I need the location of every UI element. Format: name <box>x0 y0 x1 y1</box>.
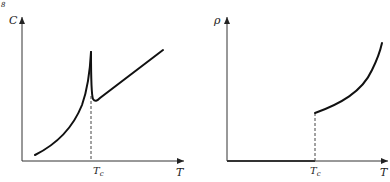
figure: 8 C T Tc ρ T Tc <box>0 0 390 182</box>
y-axis-label: C <box>9 14 18 27</box>
resistivity-panel: ρ T Tc <box>213 14 389 179</box>
critical-temp-label: Tc <box>93 165 104 178</box>
corner-mark: 8 <box>1 1 6 9</box>
curve-below-tc <box>35 52 91 155</box>
y-axis-label: ρ <box>213 14 221 27</box>
x-axis-label: T <box>176 166 185 179</box>
x-axis-label: T <box>380 166 389 179</box>
curve-above-tc <box>315 43 382 113</box>
curve-above-tc <box>91 50 163 101</box>
critical-temp-label: Tc <box>310 165 321 178</box>
heat-capacity-panel: C T Tc <box>9 14 185 179</box>
